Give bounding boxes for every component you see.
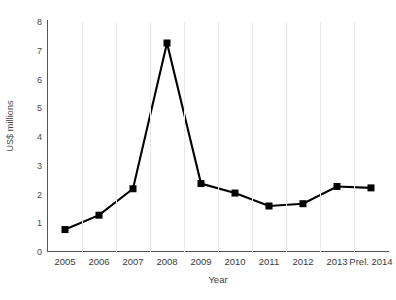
line-chart: US$ millions 012345678 20052006200720082… (0, 0, 396, 300)
x-tick-label: 2006 (88, 256, 109, 267)
y-tick-label: 0 (24, 247, 42, 257)
data-point-marker (96, 212, 103, 219)
data-point-marker (266, 203, 273, 210)
x-tick-label: Prel. 2014 (349, 256, 392, 267)
y-axis-title: US$ millions (2, 0, 18, 252)
y-tick-label: 7 (24, 46, 42, 56)
gridline-vertical (116, 22, 117, 252)
data-point-marker (368, 184, 375, 191)
gridline-vertical (252, 22, 253, 252)
x-tick-label: 2007 (122, 256, 143, 267)
data-point-marker (62, 226, 69, 233)
data-point-marker (198, 180, 205, 187)
y-tick-label: 6 (24, 75, 42, 85)
data-point-marker (334, 183, 341, 190)
y-axis-tick-labels: 012345678 (22, 0, 42, 252)
x-axis-tick-labels: 200520062007200820092010201120122013Prel… (48, 256, 388, 272)
x-tick-label: 2009 (190, 256, 211, 267)
x-tick-label: 2010 (224, 256, 245, 267)
x-tick-label: 2013 (326, 256, 347, 267)
gridline-vertical (286, 22, 287, 252)
data-point-marker (232, 190, 239, 197)
y-tick-label: 2 (24, 190, 42, 200)
y-tick-label: 1 (24, 218, 42, 228)
data-point-marker (164, 39, 171, 46)
gridline-vertical (354, 22, 355, 252)
y-axis-title-label: US$ millions (5, 100, 15, 151)
gridline-vertical (320, 22, 321, 252)
data-point-marker (300, 200, 307, 207)
y-tick-label: 5 (24, 103, 42, 113)
plot-area (48, 22, 388, 252)
gridline-vertical (82, 22, 83, 252)
gridline-vertical (184, 22, 185, 252)
y-tick-label: 3 (24, 161, 42, 171)
y-tick-label: 4 (24, 132, 42, 142)
x-tick-label: 2012 (292, 256, 313, 267)
gridline-vertical (150, 22, 151, 252)
data-point-marker (130, 185, 137, 192)
x-tick-label: 2011 (259, 256, 279, 267)
x-axis-title: Year (48, 274, 388, 285)
x-tick-label: 2005 (54, 256, 75, 267)
gridline-vertical (218, 22, 219, 252)
x-tick-label: 2008 (156, 256, 177, 267)
y-tick-label: 8 (24, 17, 42, 27)
